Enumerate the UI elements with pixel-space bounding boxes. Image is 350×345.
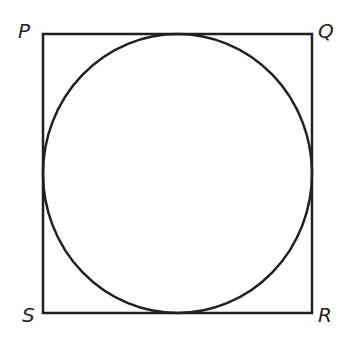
- vertex-label-q: Q: [318, 19, 334, 43]
- vertex-label-s: S: [22, 303, 35, 327]
- inscribed-circle: [43, 34, 312, 313]
- diagram-canvas: P Q S R: [0, 0, 350, 345]
- vertex-label-r: R: [318, 303, 332, 327]
- vertex-label-p: P: [18, 19, 31, 43]
- square-pqrs: [43, 34, 312, 313]
